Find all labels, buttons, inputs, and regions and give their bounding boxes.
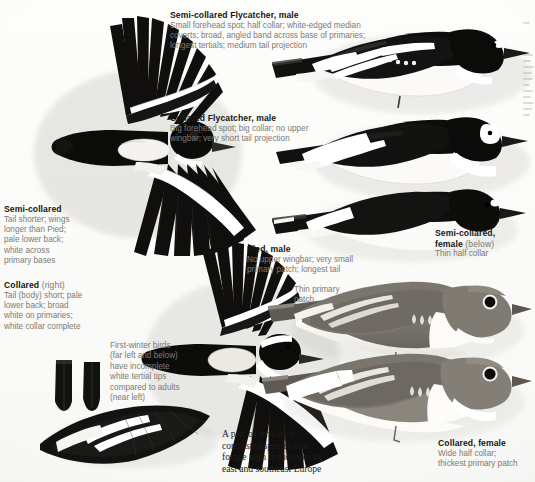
callout-body: Thin half collar	[435, 249, 495, 259]
callout-heading-suffix: (below)	[465, 239, 494, 249]
figure-folded-wing	[38, 402, 228, 476]
callout-semi-collared-male: Semi-collared Flycatcher, male Small for…	[170, 10, 365, 52]
callout-heading: Pied, male	[247, 244, 353, 255]
callout-heading: Collared Flycatcher, male	[170, 113, 308, 124]
callout-body: Tail (body) short; pale lower back; broa…	[4, 291, 82, 333]
note-habitat-summary: A pair of strikingly contrasted species …	[222, 428, 321, 474]
callout-heading-suffix: (right)	[42, 280, 65, 290]
callout-heading-text: Collared	[4, 280, 39, 290]
callout-semi-collared-flight: Semi-collared Tail shorter; wings longer…	[4, 204, 70, 267]
callout-body: Small forehead spot; half collar; white-…	[170, 21, 365, 52]
callout-heading: Collared, female	[438, 438, 518, 449]
callout-heading: Semi-collared Flycatcher, male	[170, 10, 365, 21]
callout-collared-flight: Collared (right) Tail (body) short; pale…	[4, 280, 82, 332]
callout-heading: Semi-collared,	[435, 228, 495, 239]
callout-pied-male: Pied, male No upper wingbar; very small …	[247, 244, 353, 275]
field-guide-plate: Semi-collared Flycatcher, male Small for…	[0, 0, 535, 482]
callout-collared-male: Collared Flycatcher, male Big forehead s…	[170, 113, 308, 144]
callout-heading-text: female	[435, 239, 463, 249]
callout-body: Wide half collar; thickest primary patch	[438, 449, 518, 470]
page-edge-text-column	[521, 0, 535, 482]
callout-heading-line2: female (below)	[435, 239, 495, 250]
label-first-winter-birds: First-winter birds (far left and below) …	[110, 341, 180, 403]
callout-body: Big forehead spot; big collar; no upper …	[170, 124, 308, 145]
callout-body: No upper wingbar; very small primary pat…	[247, 255, 353, 276]
label-thin-primary-patch: Thin primary patch	[294, 285, 340, 306]
callout-semi-collared-female: Semi-collared, female (below) Thin half …	[435, 228, 495, 260]
callout-body: Tail shorter; wings longer than Pied; pa…	[4, 215, 70, 267]
callout-heading: Collared (right)	[4, 280, 82, 291]
callout-collared-female: Collared, female Wide half collar; thick…	[438, 438, 518, 469]
callout-heading: Semi-collared	[4, 204, 70, 215]
